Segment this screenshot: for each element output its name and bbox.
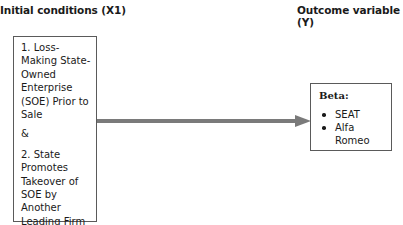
causal-arrow-icon	[97, 114, 311, 128]
condition-2-text: 2. State Promotes Takeover of SOE by Ano…	[21, 148, 92, 225]
outcome-title: Beta:	[319, 89, 387, 102]
outcome-variable-heading: Outcome variable (Y)	[297, 4, 403, 28]
outcome-item-alfa-romeo: Alfa Romeo	[319, 121, 387, 147]
outcome-list: SEAT Alfa Romeo	[319, 108, 387, 147]
condition-1-text: 1. Loss-Making State-Owned Enterprise (S…	[21, 41, 92, 121]
outcome-box: Beta: SEAT Alfa Romeo	[310, 83, 392, 151]
initial-conditions-box: 1. Loss-Making State-Owned Enterprise (S…	[13, 36, 97, 222]
initial-conditions-heading: Initial conditions (X1)	[0, 4, 126, 16]
connector-ampersand: &	[21, 127, 92, 140]
outcome-item-seat: SEAT	[319, 108, 387, 121]
